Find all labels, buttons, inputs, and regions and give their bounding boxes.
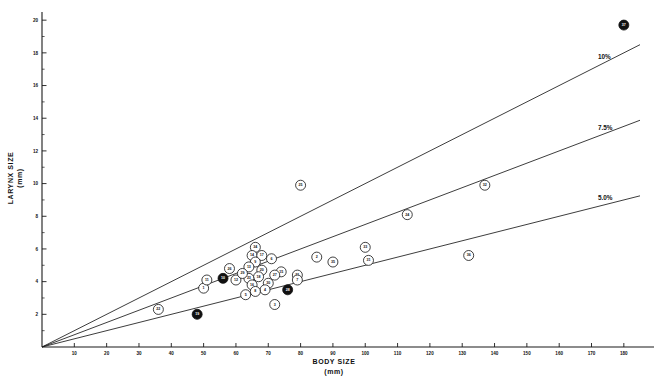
x-tick-label: 100: [361, 351, 369, 356]
data-point-label: 30: [266, 281, 270, 285]
x-tick-label: 60: [233, 351, 239, 356]
data-point: 19: [192, 309, 202, 319]
data-point-label: 8: [254, 289, 256, 293]
data-point: 25: [296, 180, 306, 190]
data-point-label: 2: [316, 255, 318, 259]
data-point-label: 17: [260, 253, 264, 257]
data-point-label: 23: [247, 276, 251, 280]
data-point: 3: [270, 300, 280, 310]
data-point: 35: [328, 257, 338, 267]
plot-background: [0, 0, 656, 382]
x-tick-label: 80: [298, 351, 304, 356]
data-point-label: 6: [271, 257, 273, 261]
data-point-label: 9: [254, 260, 256, 264]
y-tick-label: 12: [33, 149, 39, 154]
data-point-label: 37: [622, 23, 626, 27]
scatter-plot-figure: 10%7.5%5.0% 1020304050607080901001101201…: [0, 0, 656, 382]
y-tick-label: 2: [35, 312, 38, 317]
x-tick-label: 180: [620, 351, 628, 356]
x-tick-label: 10: [72, 351, 78, 356]
data-point: 7: [292, 275, 302, 285]
data-point-label: 11: [205, 278, 209, 282]
x-tick-label: 170: [588, 351, 596, 356]
reference-line-label: 10%: [598, 53, 611, 60]
x-tick-label: 20: [104, 351, 110, 356]
x-tick-label: 130: [458, 351, 466, 356]
y-axis-title: LARYNX SIZE: [7, 152, 14, 205]
data-point-label: 4: [264, 288, 266, 292]
data-point-label: 5: [245, 293, 247, 297]
data-point: 36: [464, 250, 474, 260]
data-point-label: 12: [234, 278, 238, 282]
data-point: 18: [254, 272, 264, 282]
data-point: 5: [241, 290, 251, 300]
data-point-label: 29: [240, 271, 244, 275]
data-point: 33: [360, 242, 370, 252]
data-point-label: 34: [253, 245, 257, 249]
data-point-label: 32: [483, 183, 487, 187]
plot-canvas: 10%7.5%5.0% 1020304050607080901001101201…: [0, 0, 656, 382]
data-point: 27: [270, 270, 280, 280]
data-point-label: 1: [203, 286, 205, 290]
data-point: 2: [312, 252, 322, 262]
data-point-label: 31: [366, 258, 370, 262]
data-point: 28: [283, 285, 293, 295]
y-tick-label: 10: [33, 181, 39, 186]
reference-line-label: 7.5%: [598, 124, 613, 131]
data-point: 26: [224, 264, 234, 274]
x-tick-label: 70: [266, 351, 272, 356]
data-point-label: 27: [273, 273, 277, 277]
data-point-label: 20: [260, 268, 264, 272]
data-point-label: 18: [257, 275, 261, 279]
data-point-label: 13: [247, 265, 251, 269]
x-tick-label: 90: [330, 351, 336, 356]
data-point-label: 16: [250, 283, 254, 287]
data-point: 24: [402, 210, 412, 220]
data-point-label: 28: [286, 288, 290, 292]
y-tick-label: 4: [35, 279, 38, 284]
data-point: 37: [619, 20, 629, 30]
data-point: 31: [363, 255, 373, 265]
data-point-label: 35: [331, 260, 335, 264]
x-tick-label: 30: [136, 351, 142, 356]
data-point: 29: [237, 268, 247, 278]
y-tick-label: 8: [35, 214, 38, 219]
y-tick-label: 16: [33, 83, 39, 88]
x-tick-label: 110: [394, 351, 402, 356]
data-point-label: 14: [250, 253, 254, 257]
data-point: 32: [480, 180, 490, 190]
x-tick-label: 120: [426, 351, 434, 356]
data-point-label: 7: [296, 278, 298, 282]
data-point-label: 10: [221, 276, 225, 280]
y-tick-label: 20: [33, 18, 39, 23]
y-tick-label: 14: [33, 116, 39, 121]
data-point-label: 26: [227, 267, 231, 271]
data-point: 22: [153, 304, 163, 314]
y-tick-label: 18: [33, 51, 39, 56]
data-point-label: 22: [156, 307, 160, 311]
x-tick-label: 40: [169, 351, 175, 356]
data-point: 11: [202, 275, 212, 285]
data-point-label: 25: [299, 183, 303, 187]
x-axis-title-unit: (mm): [324, 368, 344, 376]
x-axis-title: BODY SIZE: [312, 358, 355, 365]
reference-line-label: 5.0%: [598, 194, 613, 201]
data-point: 10: [218, 273, 228, 283]
x-tick-label: 150: [523, 351, 531, 356]
data-point: 4: [260, 285, 270, 295]
data-point-label: 3: [274, 303, 276, 307]
x-tick-label: 50: [201, 351, 207, 356]
data-point-label: 36: [467, 253, 471, 257]
data-point: 8: [250, 286, 260, 296]
data-point-label: 19: [195, 312, 199, 316]
x-tick-label: 140: [491, 351, 499, 356]
y-tick-label: 6: [35, 247, 38, 252]
data-point: 6: [267, 254, 277, 264]
data-point-label: 24: [405, 213, 409, 217]
x-tick-label: 160: [555, 351, 563, 356]
y-axis-title-unit: (mm): [16, 168, 24, 188]
data-point-label: 33: [363, 245, 367, 249]
